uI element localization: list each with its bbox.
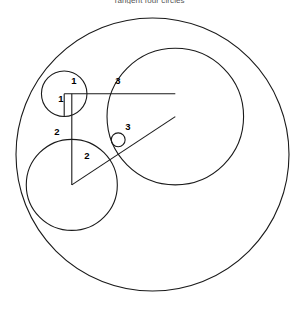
- label-1-left: 1: [58, 93, 64, 104]
- label-3-diagonal: 3: [125, 121, 130, 132]
- outer-enclosing-circle: [16, 18, 289, 291]
- label-2-bottom: 2: [84, 150, 89, 161]
- label-3-top: 3: [115, 75, 120, 86]
- circle-small-gap: [111, 133, 125, 147]
- label-2-left: 2: [54, 126, 59, 137]
- label-1-top: 1: [71, 75, 77, 86]
- figure-root: Tangent four circles 1 1 3 3 2 2: [0, 0, 298, 313]
- circle-packing-diagram: 1 1 3 3 2 2: [0, 0, 298, 313]
